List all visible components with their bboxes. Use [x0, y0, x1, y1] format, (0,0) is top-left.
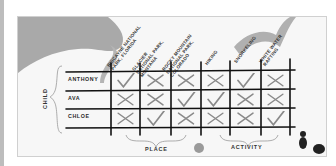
row-label-anthony: ANTHONY [68, 76, 98, 82]
x-mark-icon [175, 111, 197, 126]
row-label-chloe: CHLOE [68, 113, 90, 119]
x-mark-icon [234, 92, 257, 107]
x-mark-icon [144, 92, 167, 107]
x-mark-icon [175, 73, 197, 88]
x-mark-icon [234, 111, 257, 126]
left-edge-bar [0, 0, 4, 166]
x-mark-icon [265, 92, 286, 107]
x-mark-icon [144, 73, 167, 88]
column-group-label-place: PLACE [145, 146, 168, 152]
x-mark-icon [205, 111, 226, 126]
x-mark-icon [115, 111, 136, 126]
column-group-label-activity: ACTIVITY [231, 144, 262, 150]
x-mark-icon [205, 73, 226, 88]
x-mark-icon [265, 73, 286, 88]
check-mark-icon [205, 92, 226, 107]
check-mark-icon [175, 92, 197, 107]
check-mark-icon [144, 111, 167, 126]
x-mark-icon [115, 92, 136, 107]
check-mark-icon [265, 111, 286, 126]
row-label-ava: AVA [68, 95, 80, 101]
logic-puzzle-image: BISCAYNE NATIONALPARK, FLORIDA GLACIERNA… [17, 16, 327, 157]
check-mark-icon [234, 73, 257, 88]
check-mark-icon [115, 73, 136, 88]
row-group-label-child: CHILD [42, 88, 48, 109]
